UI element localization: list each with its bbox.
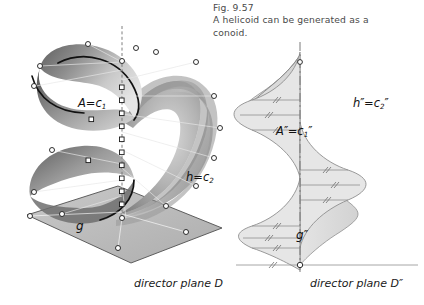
label-helix-h-sub: 2 [209,176,214,185]
figure-root: Fig. 9.57 A helicoid can be generated as… [0,0,424,305]
label-generator-g-pp-base: g [296,228,304,242]
label-director-plane-d: director plane D [134,277,223,290]
figure-caption: Fig. 9.57 A helicoid can be generated as… [213,2,418,39]
label-axis-A-sub: 1 [102,102,107,111]
label-axis-A-text: A=c [78,96,102,110]
label-helix-h-pp-sub-prime: ″ [385,96,389,110]
left-3d-helicoid [27,26,223,263]
caption-line-1: A helicoid can be generated as a [213,14,418,26]
label-axis-A: A=c1 [78,96,106,111]
label-generator-g-pp-prime: ″ [304,228,308,242]
label-helix-h-double-prime: h″=c2″ [353,96,388,111]
label-helix-h-pp-eq: =c [364,96,380,110]
label-axis-A-pp-base: A [276,124,284,138]
label-helix-h-text: h=c [186,170,209,184]
label-axis-A-pp-eq: =c [288,124,304,138]
label-director-plane-d-double-prime: director plane D″ [310,277,403,290]
label-axis-A-pp-sub-prime: ″ [308,124,312,138]
label-generator-g-double-prime: g″ [296,228,308,242]
figure-graphics [0,0,424,305]
helicoid-upper-deck [32,44,142,131]
label-axis-A-double-prime: A″=c1″ [276,124,312,139]
label-helix-h: h=c2 [186,170,214,185]
caption-line-2: conoid. [213,27,418,39]
figure-number: Fig. 9.57 [213,2,418,14]
right-front-view [234,42,418,272]
label-generator-g: g [76,219,84,233]
